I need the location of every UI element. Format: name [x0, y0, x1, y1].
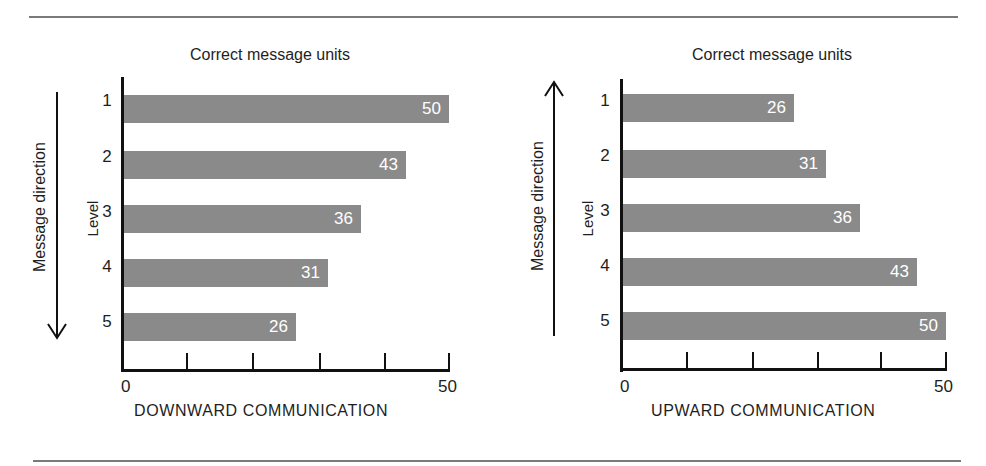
- x-tick: [880, 352, 882, 369]
- bar-value: 26: [767, 98, 786, 118]
- x-tick-label-min: 0: [620, 377, 629, 397]
- bar-value: 36: [833, 208, 852, 228]
- arrow-up-icon: [544, 80, 564, 98]
- bar-value: 50: [919, 316, 938, 336]
- y-axis-label: Level: [579, 199, 596, 239]
- x-tick: [817, 352, 819, 369]
- bar-level-3: 36: [623, 204, 860, 232]
- direction-label: Message direction: [529, 151, 547, 271]
- x-axis: [620, 368, 947, 371]
- x-tick: [686, 352, 688, 369]
- bar-value: 43: [890, 262, 909, 282]
- level-label: 5: [598, 311, 612, 331]
- bar-value: 31: [799, 154, 818, 174]
- chart-title: Correct message units: [692, 46, 852, 64]
- bar-level-4: 43: [623, 258, 917, 286]
- bar-level-5: 50: [623, 312, 946, 340]
- level-label: 4: [598, 256, 612, 276]
- bar-level-1: 26: [623, 94, 794, 122]
- x-tick: [752, 352, 754, 369]
- upward-communication-chart: Correct message units Message direction …: [0, 0, 986, 466]
- level-label: 3: [598, 201, 612, 221]
- x-tick-label-max: 50: [934, 377, 953, 397]
- bar-level-2: 31: [623, 150, 826, 178]
- direction-arrow-shaft: [553, 84, 555, 336]
- level-label: 1: [598, 91, 612, 111]
- x-tick: [945, 352, 947, 369]
- level-label: 2: [598, 146, 612, 166]
- x-axis-label: UPWARD COMMUNICATION: [651, 402, 875, 420]
